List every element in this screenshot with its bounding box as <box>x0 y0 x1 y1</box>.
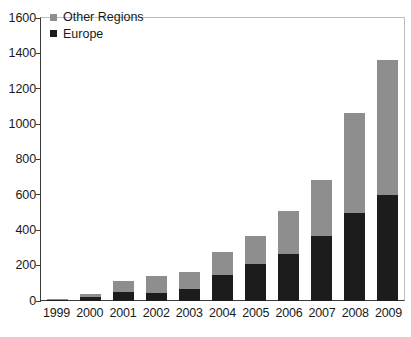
bar-segment-other-regions[interactable] <box>344 113 364 214</box>
bar-stack[interactable] <box>377 60 397 301</box>
legend-swatch-icon <box>50 14 57 21</box>
x-axis-tick-label: 2001 <box>106 307 139 329</box>
bar-segment-other-regions[interactable] <box>245 236 265 264</box>
bar-segment-other-regions[interactable] <box>113 281 133 292</box>
bar-group[interactable] <box>74 18 107 301</box>
bar-stack[interactable] <box>179 272 199 301</box>
x-axis-tick-label: 2005 <box>239 307 272 329</box>
bar-group[interactable] <box>41 18 74 301</box>
bar-segment-other-regions[interactable] <box>278 211 298 254</box>
bar-stack[interactable] <box>146 276 166 301</box>
legend-swatch-icon <box>50 30 57 37</box>
bar-group[interactable] <box>371 18 404 301</box>
x-axis-tick-label: 2007 <box>306 307 339 329</box>
legend-item[interactable]: Other Regions <box>50 11 144 24</box>
legend-item-label: Other Regions <box>63 11 144 24</box>
x-axis-tick-label: 2009 <box>372 307 405 329</box>
stacked-bar-chart: 02004006008001000120014001600 1999200020… <box>0 0 411 337</box>
bar-segment-europe[interactable] <box>47 300 67 301</box>
chart-legend: Other RegionsEurope <box>50 11 144 40</box>
x-axis-tick-label: 2004 <box>206 307 239 329</box>
bar-group[interactable] <box>239 18 272 301</box>
bar-stack[interactable] <box>278 211 298 301</box>
bar-segment-other-regions[interactable] <box>377 60 397 194</box>
bar-stack[interactable] <box>245 236 265 301</box>
y-axis: 02004006008001000120014001600 <box>0 0 41 337</box>
bar-stack[interactable] <box>311 180 331 301</box>
x-axis-tick-label: 2002 <box>140 307 173 329</box>
bar-segment-other-regions[interactable] <box>311 180 331 237</box>
x-axis-tick-label: 2000 <box>73 307 106 329</box>
bar-group[interactable] <box>140 18 173 301</box>
legend-item-label: Europe <box>63 28 103 41</box>
bar-segment-europe[interactable] <box>377 195 397 301</box>
bar-group[interactable] <box>206 18 239 301</box>
bar-segment-europe[interactable] <box>179 289 199 301</box>
x-axis: 1999200020012002200320042005200620072008… <box>40 307 405 329</box>
x-axis-tick-label: 2003 <box>173 307 206 329</box>
bar-segment-europe[interactable] <box>245 264 265 301</box>
bars-layer <box>41 18 404 301</box>
bar-segment-other-regions[interactable] <box>212 252 232 275</box>
bar-segment-europe[interactable] <box>80 297 100 301</box>
x-axis-tick-label: 2008 <box>339 307 372 329</box>
bar-stack[interactable] <box>47 299 67 301</box>
bar-stack[interactable] <box>80 294 100 301</box>
bar-stack[interactable] <box>212 252 232 301</box>
bar-stack[interactable] <box>344 113 364 301</box>
bar-segment-europe[interactable] <box>311 236 331 301</box>
bar-segment-europe[interactable] <box>212 275 232 301</box>
bar-group[interactable] <box>305 18 338 301</box>
bar-segment-other-regions[interactable] <box>179 272 199 289</box>
bar-segment-europe[interactable] <box>113 292 133 301</box>
bar-group[interactable] <box>173 18 206 301</box>
legend-item[interactable]: Europe <box>50 28 144 41</box>
bar-stack[interactable] <box>113 281 133 301</box>
bar-group[interactable] <box>338 18 371 301</box>
bar-segment-other-regions[interactable] <box>146 276 166 293</box>
bar-segment-europe[interactable] <box>278 254 298 301</box>
bar-segment-europe[interactable] <box>146 293 166 301</box>
bar-group[interactable] <box>272 18 305 301</box>
x-axis-tick-label: 1999 <box>40 307 73 329</box>
x-axis-tick-label: 2006 <box>272 307 305 329</box>
bar-segment-europe[interactable] <box>344 213 364 301</box>
bar-group[interactable] <box>107 18 140 301</box>
